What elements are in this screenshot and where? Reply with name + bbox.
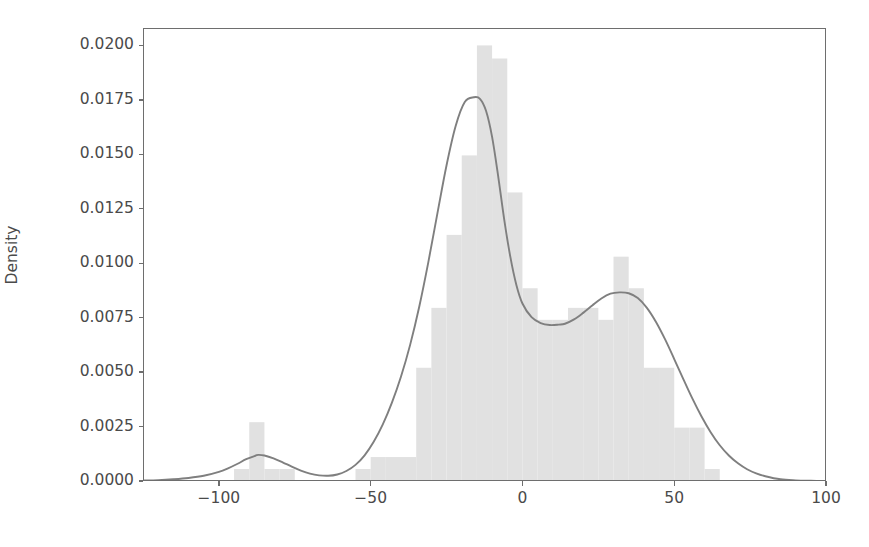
x-tick-mark <box>825 481 826 486</box>
y-tick-label: 0.0150 <box>80 147 134 163</box>
x-tick-mark <box>674 481 675 486</box>
plot-area <box>143 28 826 481</box>
x-tick-label: −50 <box>354 491 387 507</box>
density-histogram-figure: Density 0.00000.00250.00500.00750.01000.… <box>0 0 869 547</box>
x-tick-label: 0 <box>518 491 528 507</box>
y-tick-label: 0.0175 <box>80 92 134 108</box>
axes-frame <box>143 28 826 481</box>
y-tick-label: 0.0075 <box>80 310 134 326</box>
y-tick-label: 0.0200 <box>80 38 134 54</box>
y-tick-label: 0.0025 <box>80 419 134 435</box>
x-tick-label: 100 <box>811 491 841 507</box>
x-tick-label: −100 <box>198 491 241 507</box>
y-tick-label: 0.0000 <box>80 473 134 489</box>
x-tick-label: 50 <box>664 491 684 507</box>
y-axis-label: Density <box>3 215 21 295</box>
y-tick-label: 0.0125 <box>80 201 134 217</box>
x-tick-mark <box>370 481 371 486</box>
x-tick-mark <box>218 481 219 486</box>
x-tick-mark <box>522 481 523 486</box>
y-tick-label: 0.0050 <box>80 364 134 380</box>
y-tick-label: 0.0100 <box>80 255 134 271</box>
